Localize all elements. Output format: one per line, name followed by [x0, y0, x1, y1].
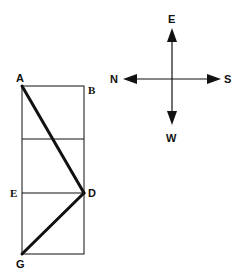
compass-label-up: E	[168, 13, 175, 25]
compass-rose: E W N S	[110, 13, 231, 144]
outer-rectangle	[22, 86, 84, 254]
arrow-down-icon	[167, 111, 177, 125]
label-point-E: E	[10, 187, 17, 199]
path-segment-DG	[22, 193, 84, 254]
label-point-D: D	[88, 187, 96, 199]
path-AD-DG	[22, 86, 84, 254]
diagram-canvas: A B D E G E W N S	[0, 0, 241, 278]
label-point-B: B	[88, 84, 96, 96]
compass-label-right: S	[224, 73, 231, 85]
grid-rectangle	[22, 86, 84, 254]
compass-label-down: W	[166, 132, 177, 144]
compass-label-left: N	[110, 73, 118, 85]
label-point-G: G	[16, 258, 25, 270]
arrow-right-icon	[207, 74, 221, 84]
arrow-up-icon	[167, 28, 177, 42]
label-point-A: A	[16, 72, 24, 84]
arrow-left-icon	[123, 74, 137, 84]
